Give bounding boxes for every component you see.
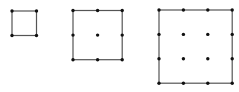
lattice-point (231, 8, 234, 11)
lattice-point (10, 9, 13, 12)
lattice-point (35, 9, 38, 12)
grid-2x2 (71, 9, 124, 62)
lattice-point (157, 82, 160, 85)
lattice-point (71, 58, 74, 61)
lattice-point (121, 58, 124, 61)
lattice-point (10, 34, 13, 37)
lattice-point (96, 58, 99, 61)
lattice-point (157, 33, 160, 36)
lattice-point (206, 57, 209, 60)
lattice-point (206, 82, 209, 85)
lattice-point (182, 82, 185, 85)
lattice-point (231, 33, 234, 36)
lattice-point (182, 8, 185, 11)
lattice-point (206, 33, 209, 36)
diagram-svg (0, 0, 239, 92)
lattice-point (182, 33, 185, 36)
lattice-point (157, 8, 160, 11)
lattice-point (96, 9, 99, 12)
grid-3x3 (157, 8, 234, 85)
lattice-point (231, 57, 234, 60)
lattice-point (206, 8, 209, 11)
lattice-point (121, 33, 124, 36)
lattice-point (35, 34, 38, 37)
lattice-point (121, 9, 124, 12)
lattice-point (157, 57, 160, 60)
lattice-point (96, 33, 99, 36)
lattice-point (71, 9, 74, 12)
grid-1x1 (10, 9, 38, 37)
lattice-point (182, 57, 185, 60)
square-outline (12, 11, 37, 36)
lattice-diagram (0, 0, 239, 92)
lattice-point (71, 33, 74, 36)
lattice-point (231, 82, 234, 85)
square-outline (159, 10, 232, 83)
